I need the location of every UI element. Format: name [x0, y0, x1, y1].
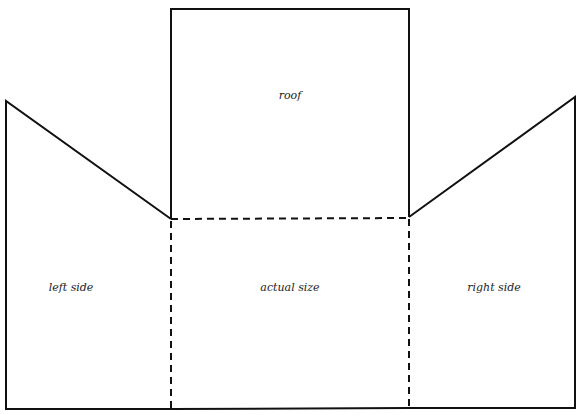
left-side-label: left side [49, 281, 94, 294]
roof-label: roof [279, 89, 302, 102]
template-net [0, 0, 581, 415]
fold-line-top [171, 218, 409, 219]
bottom-edge [171, 408, 409, 409]
right-side-outline [409, 97, 575, 408]
actual-size-label: actual size [260, 281, 319, 294]
right-side-label: right side [467, 281, 521, 294]
left-side-outline [6, 101, 171, 409]
roof-outline [171, 9, 409, 219]
